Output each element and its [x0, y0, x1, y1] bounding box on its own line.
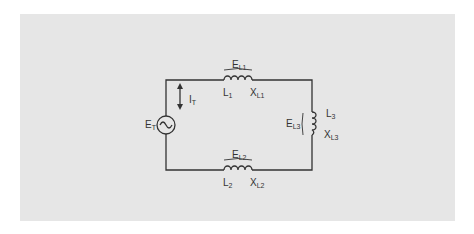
label-el2: EL2 — [232, 149, 247, 161]
inductor-l1-icon — [224, 76, 252, 80]
wire-left-top — [166, 80, 224, 116]
wire-right-bottom — [252, 135, 312, 170]
label-el1: EL1 — [232, 59, 247, 71]
label-l1: L1 — [223, 87, 233, 99]
wire-bottom-left — [166, 134, 224, 170]
inductor-l2-icon — [224, 166, 252, 170]
label-l3: L3 — [326, 108, 336, 120]
label-xl2: XL2 — [250, 177, 265, 189]
voltage-bracket-l3 — [302, 113, 303, 135]
label-l2: L2 — [223, 177, 233, 189]
label-it: IT — [189, 94, 197, 106]
label-xl3: XL3 — [324, 129, 339, 141]
inductor-l3-icon — [312, 112, 316, 135]
label-el3: EL3 — [286, 118, 301, 130]
label-et: ET — [145, 119, 157, 131]
label-xl1: XL1 — [250, 87, 265, 99]
series-inductor-circuit: EL1 L1 XL1 EL2 L2 XL2 EL3 L3 XL3 ET IT — [0, 0, 474, 234]
